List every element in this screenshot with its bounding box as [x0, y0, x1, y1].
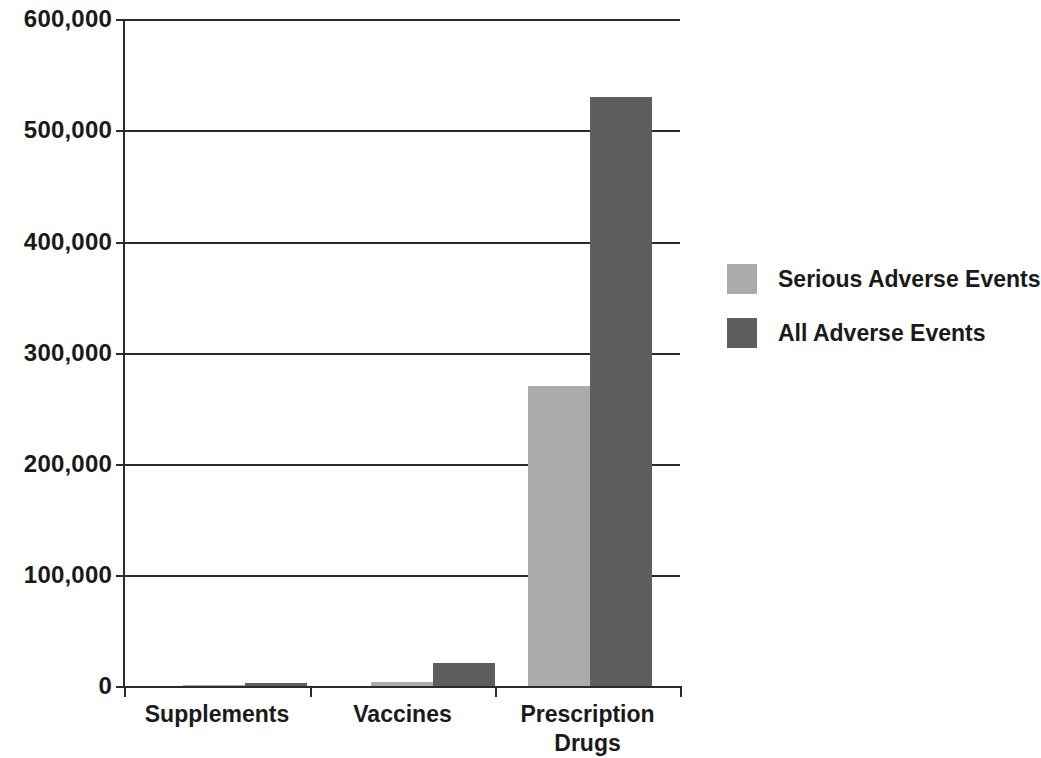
legend-item-label: Serious Adverse Events	[778, 266, 1041, 293]
x-axis-separator	[680, 686, 682, 697]
bar-supplements-all	[245, 683, 307, 686]
y-axis-tick-label: 100,000	[4, 561, 112, 589]
legend-swatch-icon	[727, 264, 757, 294]
x-axis-separator	[124, 686, 126, 697]
gridline-0	[124, 686, 680, 688]
x-axis-category-label-prescription-drugs: Prescription Drugs	[495, 700, 680, 758]
bar-vaccines-all	[433, 663, 495, 686]
bar-prescription-drugs-serious	[528, 386, 590, 686]
x-axis-category-label-vaccines: Vaccines	[310, 700, 495, 729]
bar-prescription-drugs-all	[590, 97, 652, 686]
legend-item-label: All Adverse Events	[778, 320, 986, 347]
legend-swatch-icon	[727, 318, 757, 348]
y-axis-tick-label: 0	[4, 672, 112, 700]
y-axis-tick-label: 300,000	[4, 339, 112, 367]
y-axis-tick-label: 500,000	[4, 116, 112, 144]
y-axis-tick-label: 200,000	[4, 450, 112, 478]
y-axis-tick-label: 400,000	[4, 228, 112, 256]
y-axis-labels: 600,000 500,000 400,000 300,000 200,000 …	[0, 0, 112, 753]
y-axis-tick-label: 600,000	[4, 5, 112, 33]
x-axis-category-label-supplements: Supplements	[124, 700, 310, 729]
legend-item-serious-adverse-events: Serious Adverse Events	[727, 252, 1009, 306]
x-axis-separator	[495, 686, 497, 697]
bars-layer	[124, 19, 680, 686]
x-axis-separator	[310, 686, 312, 697]
legend-item-all-adverse-events: All Adverse Events	[727, 306, 1009, 360]
bar-vaccines-serious	[371, 682, 433, 686]
bar-supplements-serious	[183, 685, 245, 686]
chart-legend: Serious Adverse Events All Adverse Event…	[727, 252, 1009, 360]
